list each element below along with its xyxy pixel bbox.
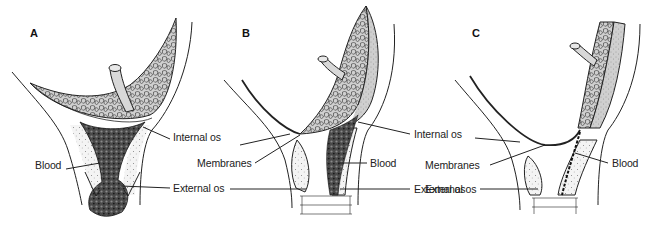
panel-b-illustration xyxy=(224,6,410,214)
panel-letter-c: C xyxy=(472,27,480,39)
label-a-internal-os: Internal os xyxy=(173,131,221,143)
label-b-internal-os: Internal os xyxy=(414,128,462,140)
panel-c-illustration xyxy=(455,22,640,214)
label-a-external-os: External os xyxy=(173,182,224,194)
label-c-external-os: External os xyxy=(425,183,476,195)
figure-stage: A B C Internal os Blood External os Memb… xyxy=(0,0,652,231)
panel-a-illustration xyxy=(12,18,192,216)
label-c-blood: Blood xyxy=(612,157,638,169)
label-c-membranes: Membranes xyxy=(425,159,480,171)
label-b-blood: Blood xyxy=(370,157,396,169)
anatomy-diagram xyxy=(0,0,652,231)
panel-letter-b: B xyxy=(242,27,250,39)
panel-letter-a: A xyxy=(30,27,38,39)
label-a-blood: Blood xyxy=(35,159,61,171)
label-b-membranes: Membranes xyxy=(197,157,252,169)
